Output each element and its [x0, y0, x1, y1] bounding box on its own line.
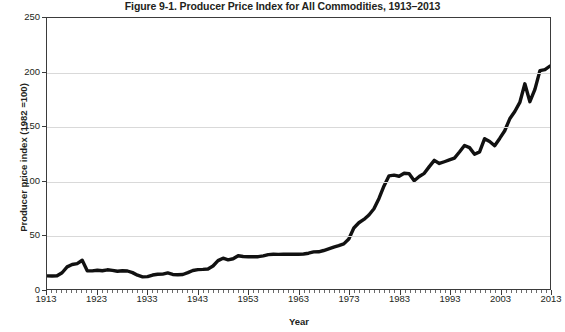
- x-tick-label-1953: 1953: [221, 293, 275, 304]
- y-tick-mark-100: [42, 181, 46, 182]
- y-tick-mark-50: [42, 235, 46, 236]
- gridline-y-200: [47, 73, 550, 74]
- figure-container: Figure 9-1. Producer Price Index for All…: [0, 0, 565, 332]
- x-tick-label-1993: 1993: [423, 293, 477, 304]
- gridline-y-150: [47, 127, 550, 128]
- y-tick-label-100: 100: [4, 176, 40, 186]
- series-line-producer-price-index: [47, 18, 550, 289]
- x-tick-label-2013: 2013: [524, 293, 565, 304]
- y-tick-mark-150: [42, 126, 46, 127]
- y-tick-mark-250: [42, 17, 46, 18]
- x-axis-title: Year: [46, 316, 552, 327]
- plot-area: [46, 17, 551, 290]
- x-tick-label-1963: 1963: [272, 293, 326, 304]
- chart-title: Figure 9-1. Producer Price Index for All…: [0, 0, 565, 13]
- x-tick-label-1913: 1913: [19, 293, 73, 304]
- y-tick-label-50: 50: [4, 230, 40, 240]
- y-tick-mark-200: [42, 72, 46, 73]
- gridline-y-100: [47, 182, 550, 183]
- x-tick-label-1973: 1973: [322, 293, 376, 304]
- y-tick-label-200: 200: [4, 67, 40, 77]
- y-tick-label-150: 150: [4, 121, 40, 131]
- x-tick-label-1943: 1943: [171, 293, 225, 304]
- x-tick-label-1983: 1983: [373, 293, 427, 304]
- gridline-y-50: [47, 236, 550, 237]
- x-tick-label-2003: 2003: [474, 293, 528, 304]
- y-tick-label-250: 250: [4, 12, 40, 22]
- x-tick-label-1933: 1933: [120, 293, 174, 304]
- x-tick-label-1923: 1923: [70, 293, 124, 304]
